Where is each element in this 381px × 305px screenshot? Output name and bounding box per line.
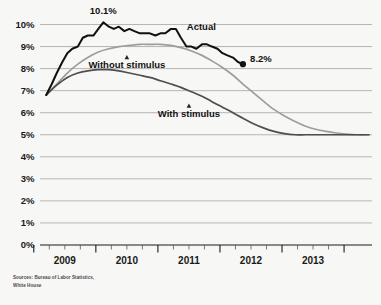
series-label-without-stimulus: Without stimulus (88, 59, 165, 70)
y-tick-8%: 8% (21, 63, 35, 74)
x-tick-label-2011: 2011 (178, 255, 200, 266)
unemployment-rate-chart: 0%1%2%3%4%5%6%7%8%9%10% 2009201020112012… (0, 0, 381, 305)
y-tick-3%: 3% (21, 173, 35, 184)
x-tick-label-2012: 2012 (240, 255, 263, 266)
end-value-label: 8.2% (250, 53, 272, 64)
y-tick-9%: 9% (21, 41, 35, 52)
y-tick-7%: 7% (21, 85, 35, 96)
chart-canvas: 0%1%2%3%4%5%6%7%8%9%10% 2009201020112012… (0, 0, 381, 305)
x-tick-label-2009: 2009 (54, 255, 77, 266)
y-tick-0%: 0% (21, 239, 35, 250)
y-tick-5%: 5% (21, 129, 35, 140)
y-axis-tick-labels: 0%1%2%3%4%5%6%7%8%9%10% (15, 19, 35, 251)
series-label-actual: Actual (187, 21, 216, 32)
y-tick-2%: 2% (21, 195, 35, 206)
source-note: Sources: Bureau of Labor Statistics, Whi… (13, 274, 94, 289)
peak-value-label: 10.1% (90, 5, 117, 16)
gridlines (40, 25, 372, 223)
y-tick-1%: 1% (21, 217, 35, 228)
y-tick-10%: 10% (15, 19, 35, 30)
y-tick-4%: 4% (21, 151, 35, 162)
y-tick-6%: 6% (21, 107, 35, 118)
x-tick-label-2013: 2013 (302, 255, 325, 266)
x-axis-tick-labels: 20092010201120122013 (54, 255, 325, 266)
series-line-with-stimulus (46, 70, 369, 135)
series-label-with-stimulus: With stimulus (158, 108, 220, 119)
series-line-without-stimulus (46, 44, 369, 135)
x-tick-label-2010: 2010 (116, 255, 139, 266)
actual-endpoint-dot (240, 61, 246, 67)
x-axis (34, 245, 372, 253)
